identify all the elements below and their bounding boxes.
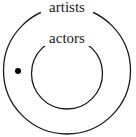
euler-diagram: artists actors xyxy=(0,0,136,137)
diagram-canvas: artists actors xyxy=(0,0,136,137)
element-dot xyxy=(15,68,21,74)
actors-label: actors xyxy=(49,30,85,46)
artists-circle xyxy=(4,7,131,134)
artists-label: artists xyxy=(49,0,85,15)
actors-circle xyxy=(32,38,103,109)
